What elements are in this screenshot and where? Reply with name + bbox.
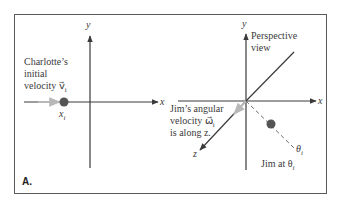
jim-dot (267, 120, 276, 129)
theta-subscript: i (301, 149, 303, 157)
position-label: xi (59, 108, 65, 124)
omega-arrow-icon (234, 101, 246, 114)
charlotte-caption-line3: velocity v⃗i (24, 80, 67, 96)
omega-text: velocity ω⃗ (170, 115, 213, 126)
panel-label: A. (22, 176, 32, 187)
velocity-text: velocity v⃗ (24, 80, 65, 91)
jim-text: Jim at θ (261, 158, 292, 169)
omega-caption-line3: is along z. (170, 127, 211, 138)
theta-label: θi (296, 143, 303, 159)
charlotte-caption-line2: initial (24, 68, 47, 79)
left-y-label: y (86, 19, 90, 30)
right-y-label: y (242, 18, 246, 29)
omega-caption-line1: Jim’s angular (170, 103, 224, 114)
perspective-line2: view (251, 42, 270, 53)
right-z-label: z (193, 148, 197, 159)
jim-subscript: i (292, 164, 294, 172)
charlotte-dot (60, 98, 69, 107)
perspective-line (246, 52, 294, 101)
velocity-subscript: i (65, 86, 67, 94)
charlotte-caption-line1: Charlotte’s (24, 56, 68, 67)
position-subscript: i (63, 114, 65, 122)
jim-label: Jim at θi (261, 158, 294, 174)
right-x-label: x (318, 95, 322, 106)
left-x-label: x (160, 96, 164, 107)
perspective-line1: Perspective (251, 30, 297, 41)
omega-subscript: i (213, 121, 215, 129)
